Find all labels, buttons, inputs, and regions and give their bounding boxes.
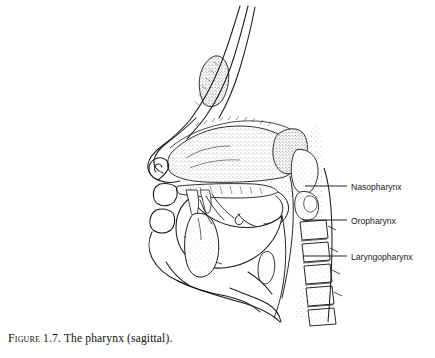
figure-caption: Figure 1.7. The pharynx (sagittal). (8, 331, 172, 346)
caption-number: 1.7. (43, 332, 61, 344)
caption-text: The pharynx (sagittal). (64, 332, 173, 344)
caption-prefix: Figure (8, 331, 40, 345)
label-nasopharynx: Nasopharynx (351, 182, 402, 192)
figure-container: Nasopharynx Oropharynx Laryngopharynx Fi… (0, 0, 435, 358)
sagittal-head-illustration: Nasopharynx Oropharynx Laryngopharynx (0, 0, 435, 358)
label-oropharynx: Oropharynx (351, 216, 397, 226)
label-laryngopharynx: Laryngopharynx (351, 252, 413, 262)
